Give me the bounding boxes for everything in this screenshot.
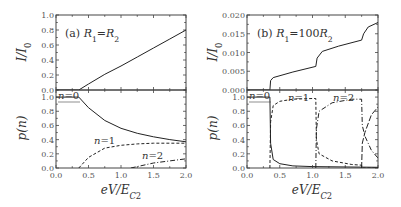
annotation-a-n0: n=0 [58, 90, 79, 101]
x-tick-label: 2.0 [372, 171, 385, 180]
annotation-a-n1: n=1 [94, 135, 115, 146]
y-tick-label: 0.020 [222, 11, 245, 20]
y-tick-label: 0.8 [41, 107, 54, 116]
x-axis-label-a: eV/EC2 [101, 183, 141, 201]
y-tick-label: 0.2 [41, 71, 54, 80]
x-tick-label: 1.0 [306, 171, 319, 180]
series-n-0 [247, 97, 378, 167]
y-tick-label: 0.4 [232, 136, 245, 145]
y-tick-label: 0.2 [232, 150, 245, 159]
y-tick-label: 0.010 [222, 49, 245, 58]
x-tick-label: 0.5 [273, 171, 286, 180]
plot--a-bottom: 0.00.51.01.52.00.00.20.40.60.81.0 [41, 90, 192, 180]
y-tick-label: 0.8 [41, 26, 54, 35]
y-tick-label: 0.0 [41, 164, 54, 173]
y-tick-label: 0.4 [41, 136, 54, 145]
series-n-2 [316, 99, 378, 168]
y-tick-label: 0.0 [232, 164, 245, 173]
plot--a-top: 0.00.20.40.60.81.0 [41, 11, 186, 95]
annotation-a-n2: n=2 [142, 150, 163, 161]
y-tick-label: 0.015 [222, 30, 245, 39]
plot--b-bottom: 0.00.51.01.52.00.00.20.40.60.81.0 [232, 90, 384, 180]
y-axis-label-prob-a: p(n) [15, 115, 29, 140]
y-tick-label: 0.8 [232, 107, 245, 116]
y-tick-label: 0.6 [232, 121, 245, 130]
annotation-b-n0: n=0 [249, 90, 270, 101]
figure: 0.00.20.40.60.81.00.00.51.01.52.00.00.20… [0, 0, 401, 207]
x-tick-label: 1.5 [147, 171, 160, 180]
panel-b-title: (b) R1=100R2 [257, 27, 333, 44]
y-tick-label: 0.4 [41, 56, 54, 65]
series-n-3 [362, 107, 378, 168]
x-tick-label: 1.0 [115, 171, 128, 180]
y-tick-label: 0.2 [41, 150, 54, 159]
y-tick-label: 1.0 [232, 93, 245, 102]
x-tick-label: 2.0 [180, 171, 193, 180]
y-axis-label-current-a: I/I0 [15, 43, 33, 63]
x-tick-label: 0.5 [82, 171, 95, 180]
y-tick-label: 1.0 [41, 11, 54, 20]
annotation-b-n1: n=1 [288, 92, 309, 103]
series-n-1 [79, 143, 186, 168]
y-tick-label: 0.005 [222, 67, 245, 76]
plot--b-top: 0.0000.0050.0100.0150.020 [222, 11, 378, 95]
annotation-b-n2: n=2 [333, 92, 354, 103]
y-tick-label: 1.0 [41, 93, 54, 102]
y-tick-label: 0.6 [41, 121, 54, 130]
panel-a-title: (a) R1=R2 [65, 27, 119, 44]
y-axis-label-prob-b: p(n) [206, 115, 220, 140]
x-axis-label-b: eV/EC2 [292, 183, 332, 201]
y-tick-label: 0.6 [41, 41, 54, 50]
series-n-0 [56, 97, 186, 142]
x-tick-label: 1.5 [339, 171, 352, 180]
